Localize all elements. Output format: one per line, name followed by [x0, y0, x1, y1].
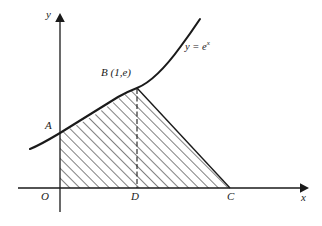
point-label-a: A [45, 120, 52, 131]
point-label-o: O [41, 191, 49, 202]
y-axis-label: y [46, 9, 51, 20]
point-label-c: C [227, 191, 234, 202]
y-axis-arrowhead [55, 13, 65, 22]
curve-equation-exponent: x [207, 39, 210, 47]
curve-equation-label: y = ex [185, 40, 210, 52]
point-label-b: B (1,e) [101, 67, 131, 78]
math-figure: y x O A B (1,e) D C y = ex [0, 0, 322, 226]
x-axis-label: x [301, 192, 306, 203]
curve-equation-base: y = e [185, 41, 207, 52]
point-label-d: D [131, 191, 139, 202]
